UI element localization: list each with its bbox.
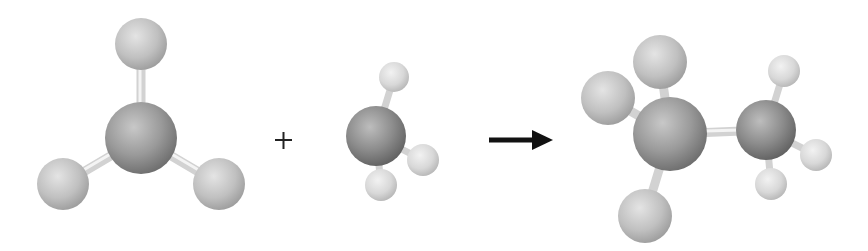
reactant-methyl-group [346,62,439,201]
substituent-atom [37,158,89,210]
hydrogen-atom [768,55,800,87]
reactant-trigonal-molecule [37,18,245,210]
reaction-arrow [489,130,553,150]
hydrogen-atom [755,168,787,200]
bond-highlight [705,130,740,131]
hydrogen-atom [407,144,439,176]
substituent-atom [633,35,687,89]
hydrogen-atom [800,139,832,171]
substituent-atom [193,158,245,210]
product-molecule [581,35,832,243]
substituent-atom [581,71,635,125]
carbon-atom [346,106,406,166]
central-atom [633,97,707,171]
substituent-atom [618,189,672,243]
central-atom [105,102,177,174]
plus-operator [275,132,292,149]
reaction-diagram [0,0,868,251]
carbon-atom [736,100,796,160]
hydrogen-atom [379,62,409,92]
substituent-atom [115,18,167,70]
hydrogen-atom [365,169,397,201]
